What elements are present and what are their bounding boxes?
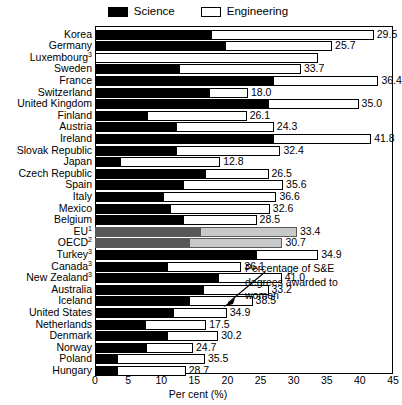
bar-poland <box>95 354 205 364</box>
legend-swatch-engineering-icon <box>201 7 221 17</box>
bar-switzerland <box>95 88 248 98</box>
science-segment <box>96 239 190 247</box>
category-label-australia: Australia <box>51 283 92 295</box>
bar-value-label: 18.0 <box>251 86 271 98</box>
category-label-belgium: Belgium <box>54 213 92 225</box>
x-axis-title: Per cent (%) <box>0 388 396 400</box>
x-tick-30: 30 <box>288 374 300 386</box>
bar-austria <box>95 122 274 132</box>
x-tick-15: 15 <box>188 374 200 386</box>
bar-value-label: 24.7 <box>196 341 216 353</box>
bar-spain <box>95 180 283 190</box>
bar-united-kingdom <box>95 99 359 109</box>
bar-korea <box>95 30 374 40</box>
science-segment <box>96 309 174 317</box>
category-label-italy: Italy <box>73 190 92 202</box>
bar-value-label: 12.8 <box>223 155 243 167</box>
bar-value-label: 41.8 <box>374 132 394 144</box>
bar-denmark <box>95 331 218 341</box>
bar-value-label: 24.3 <box>277 120 297 132</box>
bar-value-label: 36.4 <box>381 74 401 86</box>
science-segment <box>96 158 121 166</box>
bar-germany <box>95 41 332 51</box>
science-segment <box>96 344 147 352</box>
science-segment <box>96 65 180 73</box>
category-label-slovak-republic: Slovak Republic <box>17 144 92 156</box>
bar-japan <box>95 157 220 167</box>
bar-value-label: 35.5 <box>208 352 228 364</box>
bar-value-label: 17.5 <box>209 318 229 330</box>
x-tick-5: 5 <box>125 374 131 386</box>
bar-ireland <box>95 134 371 144</box>
category-label-spain: Spain <box>65 178 92 190</box>
category-label-luxembourg: Luxembourg3 <box>30 51 92 63</box>
legend-label-engineering: Engineering <box>227 6 288 18</box>
bar-value-label: 30.7 <box>285 236 305 248</box>
category-label-united-states: United States <box>29 306 92 318</box>
bar-value-label: 33.7 <box>304 62 324 74</box>
bar-value-label: 33.4 <box>300 225 320 237</box>
x-tick-0: 0 <box>92 374 98 386</box>
bar-value-label: 26.1 <box>250 109 270 121</box>
science-segment <box>96 321 146 329</box>
bar-slovak-republic <box>95 146 280 156</box>
science-segment <box>96 31 212 39</box>
category-label-france: France <box>59 74 92 86</box>
category-label-new-zealand: New Zealand3 <box>26 271 92 283</box>
x-tick-25: 25 <box>255 374 267 386</box>
category-label-norway: Norway <box>56 341 92 353</box>
bar-row: Slovak Republic32.4 <box>0 145 396 157</box>
category-label-united-kingdom: United Kingdom <box>17 97 92 109</box>
bar-value-label: 30.2 <box>221 329 241 341</box>
bar-value-label: 29.5 <box>377 28 397 40</box>
bar-luxembourg <box>95 53 318 63</box>
category-label-canada: Canada3 <box>51 260 92 272</box>
legend-swatch-science-icon <box>108 7 128 17</box>
science-segment <box>96 297 190 305</box>
category-label-switzerland: Switzerland <box>38 86 92 98</box>
bar-mexico <box>95 204 270 214</box>
bar-eu <box>95 227 297 237</box>
category-label-ireland: Ireland <box>60 132 92 144</box>
category-label-japan: Japan <box>63 155 92 167</box>
category-label-poland: Poland <box>59 352 92 364</box>
science-segment <box>96 100 269 108</box>
x-tick-45: 45 <box>387 374 399 386</box>
science-segment <box>96 42 226 50</box>
category-label-germany: Germany <box>49 39 92 51</box>
bar-sweden <box>95 64 301 74</box>
x-tick-35: 35 <box>321 374 333 386</box>
science-segment <box>96 193 164 201</box>
legend-label-science: Science <box>134 6 175 18</box>
category-label-turkey: Turkey3 <box>56 248 92 260</box>
bar-italy <box>95 192 276 202</box>
annotation-arrow-icon <box>221 270 267 310</box>
bar-value-label: 26.5 <box>272 167 292 179</box>
bar-oecd <box>95 238 282 248</box>
bar-france <box>95 76 378 86</box>
science-segment <box>96 123 177 131</box>
science-segment <box>96 135 274 143</box>
bar-value-label: 35.6 <box>286 178 306 190</box>
bar-belgium <box>95 215 257 225</box>
science-segment <box>96 112 148 120</box>
bar-netherlands <box>95 320 206 330</box>
science-segment <box>96 286 204 294</box>
category-label-mexico: Mexico <box>59 202 92 214</box>
bar-value-label: 35.0 <box>362 97 382 109</box>
science-segment <box>96 251 257 259</box>
category-label-denmark: Denmark <box>49 329 92 341</box>
bar-value-label: 25.7 <box>335 39 355 51</box>
annotation-line-3: women <box>245 289 395 303</box>
bar-row: Belgium28.5 <box>0 214 396 226</box>
bar-czech-republic <box>95 169 269 179</box>
annotation-line-1: Percentage of S&E <box>245 262 395 276</box>
science-segment <box>96 205 171 213</box>
science-segment <box>96 77 274 85</box>
bar-turkey <box>95 250 318 260</box>
category-label-austria: Austria <box>59 120 92 132</box>
bar-finland <box>95 111 247 121</box>
x-tick-20: 20 <box>222 374 234 386</box>
legend-item-engineering: Engineering <box>201 6 288 18</box>
science-segment <box>96 332 168 340</box>
